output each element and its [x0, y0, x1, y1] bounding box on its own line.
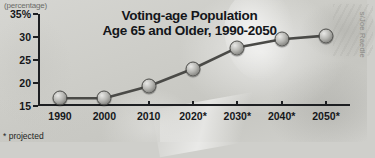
- data-point-2010: [141, 79, 156, 94]
- x-tick-label-2010: 2010: [137, 111, 160, 122]
- x-tick-label-2050: 2050*: [312, 111, 339, 122]
- data-point-2050: [319, 28, 334, 43]
- data-point-2040: [274, 32, 289, 47]
- y-tick-label-30: 30: [19, 32, 31, 43]
- x-tick-label-2020: 2020*: [179, 111, 206, 122]
- x-tick-label-2030: 2030*: [224, 111, 251, 122]
- plot-area: 1520253035% 1990200020102020*2030*2040*2…: [38, 14, 350, 106]
- data-point-1990: [53, 91, 68, 106]
- x-tick-label-2000: 2000: [93, 111, 116, 122]
- photo-credit: s/Joe Raedle: [358, 12, 367, 58]
- y-tick-label-20: 20: [19, 78, 31, 89]
- series-line: [38, 14, 350, 106]
- x-tick-label-1990: 1990: [48, 111, 71, 122]
- data-point-2020: [186, 61, 201, 76]
- y-tick-label-25: 25: [19, 55, 31, 66]
- y-tick-label-35: 35%: [10, 9, 31, 20]
- y-tick-label-15: 15: [19, 101, 31, 112]
- footnote: * projected: [3, 131, 44, 141]
- data-point-2030: [230, 40, 245, 55]
- data-point-2000: [97, 91, 112, 106]
- x-tick-label-2040: 2040*: [268, 111, 295, 122]
